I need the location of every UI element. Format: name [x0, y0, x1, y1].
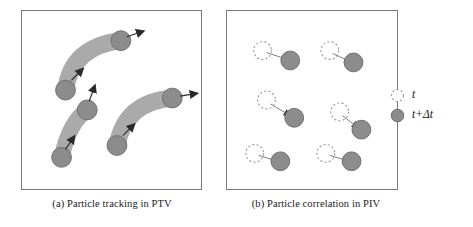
particle-at-t-plus-dt	[344, 53, 363, 72]
particle-at-t-plus-dt	[285, 108, 304, 127]
filled-circle-icon	[390, 108, 405, 123]
particle-end	[162, 88, 182, 108]
particle-at-t-plus-dt	[281, 51, 300, 70]
ptv-trajectory-1	[56, 31, 139, 100]
legend-label-t: t	[412, 89, 415, 101]
particle-at-t	[246, 144, 264, 162]
legend-item-t-plus-dt: t+Δt	[390, 106, 433, 124]
legend-label-t-plus-dt: t+Δt	[412, 109, 433, 121]
particle-start	[52, 147, 72, 167]
piv-pair-4	[331, 103, 371, 139]
displacement-vector	[270, 104, 287, 114]
caption-panel-b: (b) Particle correlation in PIV	[218, 198, 414, 209]
particle-start	[107, 136, 127, 156]
dashed-circle-icon	[390, 88, 405, 103]
figure-root: (a) Particle tracking in PTV (b) Particl…	[0, 0, 473, 227]
ptv-trajectory-3	[52, 90, 97, 167]
direction-arrow-tip	[89, 90, 93, 101]
ptv-trajectory-2	[107, 88, 192, 155]
particle-end	[111, 31, 131, 51]
particle-at-t-plus-dt	[342, 152, 361, 171]
piv-pair-1	[254, 42, 300, 70]
particle-at-t	[254, 42, 272, 60]
particle-at-t-plus-dt	[271, 152, 290, 171]
particle-at-t	[321, 42, 339, 60]
panel-ptv	[21, 10, 202, 190]
piv-pair-3	[258, 91, 304, 127]
legend-item-t: t	[390, 86, 415, 104]
piv-pair-2	[321, 42, 363, 72]
piv-diagram	[227, 11, 397, 189]
caption-panel-a: (a) Particle tracking in PTV	[0, 198, 224, 209]
particle-at-t	[317, 144, 335, 162]
particle-at-t-plus-dt	[352, 120, 371, 139]
particle-end	[77, 100, 97, 120]
piv-pair-5	[246, 144, 290, 170]
panel-piv	[226, 10, 398, 190]
particle-start	[56, 80, 76, 100]
ptv-diagram	[22, 11, 201, 189]
piv-pair-6	[317, 144, 361, 170]
legend: t t+Δt	[390, 86, 470, 132]
particle-at-t	[258, 91, 276, 109]
